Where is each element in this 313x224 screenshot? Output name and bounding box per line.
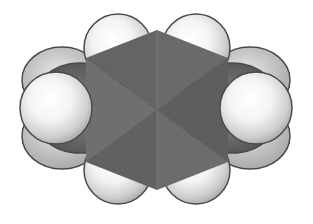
molecule-figure: Space-filling model of a para-disubstitu… xyxy=(0,0,313,224)
benzene-ring xyxy=(86,30,228,190)
molecule-model xyxy=(0,0,313,224)
hydrogen-atom-front-left xyxy=(20,72,92,144)
hydrogen-atom-front-right xyxy=(220,72,292,144)
